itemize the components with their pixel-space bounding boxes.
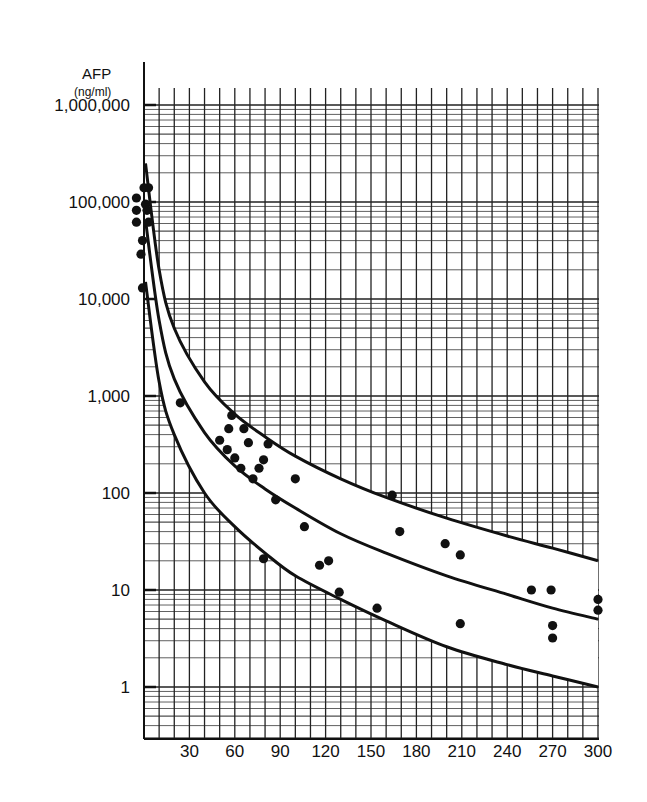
- y-tick-label: 10: [111, 581, 130, 600]
- data-point: [335, 588, 344, 597]
- data-point: [248, 474, 257, 483]
- data-point: [527, 585, 536, 594]
- data-point: [223, 445, 232, 454]
- data-point: [324, 556, 333, 565]
- data-point: [132, 218, 141, 227]
- x-tick-label: 60: [225, 742, 244, 761]
- data-point: [395, 527, 404, 536]
- data-point: [388, 491, 397, 500]
- data-point: [593, 595, 602, 604]
- data-point: [215, 436, 224, 445]
- y-tick-label: 10,000: [78, 290, 130, 309]
- data-point: [138, 236, 147, 245]
- data-point: [372, 604, 381, 613]
- y-axis-label: AFP: [82, 65, 111, 82]
- data-point: [456, 550, 465, 559]
- x-tick-label: 30: [180, 742, 199, 761]
- data-point: [548, 633, 557, 642]
- data-point: [441, 539, 450, 548]
- y-tick-label: 1: [121, 678, 130, 697]
- x-tick-labels: 306090120150180210240270300: [180, 742, 612, 761]
- y-tick-label: 100: [102, 484, 130, 503]
- data-point: [263, 439, 272, 448]
- data-point: [144, 218, 153, 227]
- data-point: [291, 474, 300, 483]
- y-tick-label: 1,000,000: [54, 96, 130, 115]
- afp-chart: AFP (ng/ml) 1,000,000100,00010,0001,0001…: [0, 0, 647, 802]
- data-point: [244, 438, 253, 447]
- data-point: [138, 283, 147, 292]
- x-tick-label: 180: [402, 742, 430, 761]
- data-point: [593, 606, 602, 615]
- data-point: [224, 424, 233, 433]
- data-point: [546, 585, 555, 594]
- x-tick-label: 90: [271, 742, 290, 761]
- y-axis-title: AFP (ng/ml): [74, 65, 111, 99]
- x-tick-label: 270: [538, 742, 566, 761]
- data-point: [315, 561, 324, 570]
- x-tick-label: 150: [357, 742, 385, 761]
- data-point: [239, 424, 248, 433]
- data-point: [548, 621, 557, 630]
- data-point: [144, 183, 153, 192]
- data-point: [456, 619, 465, 628]
- x-tick-label: 210: [448, 742, 476, 761]
- data-point: [271, 495, 280, 504]
- data-point: [236, 464, 245, 473]
- y-tick-label: 1,000: [87, 387, 130, 406]
- data-point: [176, 398, 185, 407]
- data-point: [132, 206, 141, 215]
- data-point: [254, 464, 263, 473]
- y-tick-label: 100,000: [69, 193, 130, 212]
- data-point: [300, 522, 309, 531]
- data-point: [259, 554, 268, 563]
- data-point: [230, 453, 239, 462]
- data-point: [259, 455, 268, 464]
- x-tick-label: 120: [311, 742, 339, 761]
- data-point: [227, 411, 236, 420]
- x-tick-label: 300: [584, 742, 612, 761]
- x-tick-label: 240: [493, 742, 521, 761]
- data-point: [132, 193, 141, 202]
